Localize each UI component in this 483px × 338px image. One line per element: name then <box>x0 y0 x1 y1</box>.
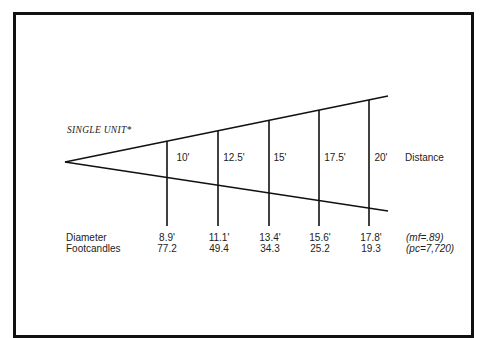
footcandles-value-4: 25.2 <box>310 243 329 254</box>
diameter-value-2: 11.1' <box>209 232 230 243</box>
distance-axis-label: Distance <box>405 152 444 163</box>
diameter-value-3: 13.4' <box>259 232 280 243</box>
distance-label-3: 15' <box>273 152 286 163</box>
diameter-value-1: 8.9' <box>159 232 175 243</box>
diagram-title: SINGLE UNIT* <box>67 125 132 135</box>
footcandles-row-label: Footcandles <box>66 243 120 254</box>
diameter-value-4: 15.6' <box>309 232 330 243</box>
diameter-row-label: Diameter <box>66 232 107 243</box>
distance-label-2: 12.5' <box>223 152 244 163</box>
beam-lower-edge <box>65 162 388 211</box>
footcandles-value-5: 19.3 <box>361 243 380 254</box>
diameter-value-5: 17.8' <box>360 232 381 243</box>
footcandles-value-1: 77.2 <box>157 243 176 254</box>
distance-label-1: 10' <box>176 152 189 163</box>
pc-note: (pc=7,720) <box>406 243 454 254</box>
footcandles-value-3: 34.3 <box>260 243 279 254</box>
distance-label-4: 17.5' <box>324 152 345 163</box>
distance-label-5: 20' <box>374 152 387 163</box>
mf-note: (mf=.89) <box>406 232 444 243</box>
footcandles-value-2: 49.4 <box>209 243 228 254</box>
